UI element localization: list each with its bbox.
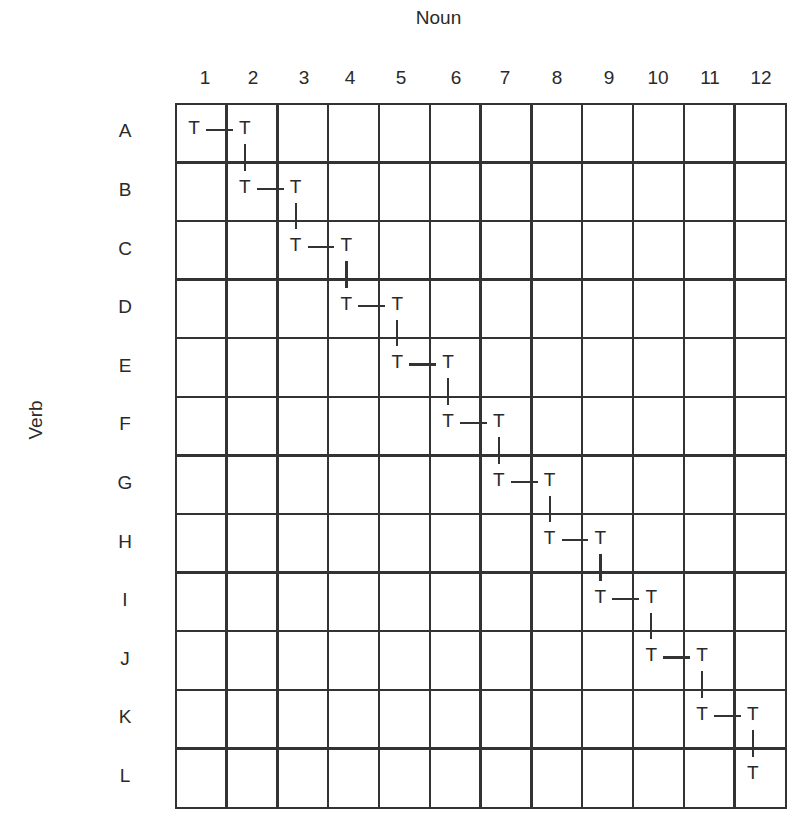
column-label: 12 [736, 67, 786, 89]
horizontal-connector [460, 422, 487, 424]
t-mark: T [187, 118, 201, 138]
column-label: 8 [532, 67, 582, 89]
horizontal-connector [511, 481, 538, 483]
column-label: 11 [685, 67, 735, 89]
row-label: B [110, 179, 140, 201]
vertical-connector [447, 378, 449, 405]
t-mark: T [593, 528, 607, 548]
t-mark: T [492, 411, 506, 431]
horizontal-connector [714, 715, 741, 717]
row-label: D [110, 296, 140, 318]
y-axis-title: Verb [25, 400, 47, 439]
t-mark: T [289, 235, 303, 255]
row-label: G [110, 472, 140, 494]
t-mark: T [390, 294, 404, 314]
row-label: E [110, 355, 140, 377]
t-mark: T [746, 704, 760, 724]
vertical-connector [701, 671, 703, 698]
grid-row-line [177, 630, 785, 633]
row-label: L [110, 765, 140, 787]
column-label: 1 [180, 67, 230, 89]
grid-row-line [177, 571, 785, 574]
column-label: 9 [584, 67, 634, 89]
grid-row-line [177, 161, 785, 164]
t-mark: T [390, 352, 404, 372]
column-label: 4 [325, 67, 375, 89]
t-mark: T [238, 177, 252, 197]
column-label: 2 [228, 67, 278, 89]
vertical-connector [345, 261, 347, 288]
grid-row-line [177, 689, 785, 692]
horizontal-connector [409, 363, 436, 365]
t-mark: T [339, 235, 353, 255]
grid-row-line [177, 337, 785, 340]
vertical-connector [295, 203, 297, 230]
row-label: J [110, 648, 140, 670]
grid-row-line [177, 513, 785, 516]
t-mark: T [695, 645, 709, 665]
vertical-connector [396, 320, 398, 347]
t-mark: T [644, 587, 658, 607]
vertical-connector [752, 730, 754, 757]
row-label: F [110, 413, 140, 435]
grid-row-line [177, 220, 785, 223]
column-label: 7 [480, 67, 530, 89]
t-mark: T [593, 587, 607, 607]
horizontal-connector [308, 246, 335, 248]
horizontal-connector [358, 305, 385, 307]
grid-row-line [177, 454, 785, 457]
t-mark: T [695, 704, 709, 724]
column-label: 10 [633, 67, 683, 89]
grid-row-line [177, 396, 785, 399]
horizontal-connector [562, 539, 589, 541]
horizontal-connector [663, 656, 690, 658]
vertical-connector [650, 613, 652, 640]
t-mark: T [441, 411, 455, 431]
column-label: 3 [279, 67, 329, 89]
t-mark: T [289, 177, 303, 197]
vertical-connector [244, 144, 246, 171]
horizontal-connector [612, 598, 639, 600]
horizontal-connector [206, 129, 233, 131]
grid-row-line [177, 278, 785, 281]
t-mark: T [543, 470, 557, 490]
row-label: A [110, 120, 140, 142]
vertical-connector [549, 496, 551, 523]
row-label: K [110, 706, 140, 728]
horizontal-connector [257, 188, 284, 190]
t-mark: T [492, 470, 506, 490]
t-mark: T [746, 763, 760, 783]
t-mark: T [543, 528, 557, 548]
t-mark: T [644, 645, 658, 665]
vertical-connector [498, 437, 500, 464]
vertical-connector [599, 554, 601, 581]
row-label: I [110, 589, 140, 611]
grid-row-line [177, 747, 785, 750]
t-mark: T [238, 118, 252, 138]
t-mark: T [339, 294, 353, 314]
x-axis-title: Noun [0, 7, 807, 29]
column-label: 5 [376, 67, 426, 89]
column-label: 6 [431, 67, 481, 89]
t-mark: T [441, 352, 455, 372]
row-label: H [110, 531, 140, 553]
row-label: C [110, 238, 140, 260]
